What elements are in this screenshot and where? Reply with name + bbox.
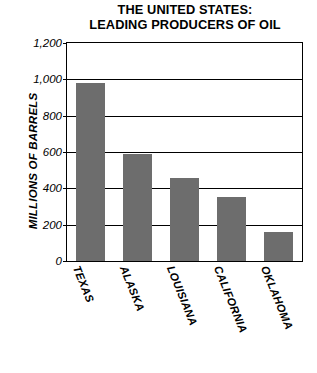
bar-louisiana xyxy=(170,178,199,261)
bar-california xyxy=(217,197,246,261)
chart-title: THE UNITED STATES: LEADING PRODUCERS OF … xyxy=(60,2,310,32)
bar-chart-figure: THE UNITED STATES: LEADING PRODUCERS OF … xyxy=(0,0,317,373)
x-axis-label-california: CALIFORNIA xyxy=(211,264,249,334)
x-axis-category-labels: TEXASALASKALOUISIANACALIFORNIAOKLAHOMA xyxy=(66,264,303,364)
x-axis-label-alaska: ALASKA xyxy=(117,264,146,313)
y-tick-label-400: 400 xyxy=(43,182,62,194)
x-axis-label-texas: TEXAS xyxy=(70,264,95,304)
x-axis-label-louisiana: LOUISIANA xyxy=(164,264,199,327)
y-tick-label-1200: 1,200 xyxy=(33,37,62,49)
y-tick-label-800: 800 xyxy=(43,110,62,122)
bar-texas xyxy=(76,83,105,261)
plot-area: 02004006008001,0001,200 xyxy=(66,42,303,262)
y-tick-mark-0 xyxy=(63,261,67,262)
y-tick-label-600: 600 xyxy=(43,146,62,158)
y-tick-label-0: 0 xyxy=(56,255,62,267)
y-axis-title: MILLIONS OF BARRELS xyxy=(27,66,39,256)
y-tick-label-200: 200 xyxy=(43,219,62,231)
x-axis-label-oklahoma: OKLAHOMA xyxy=(258,264,294,331)
bar-alaska xyxy=(123,154,152,261)
bar-oklahoma xyxy=(264,232,293,261)
chart-title-line-2: LEADING PRODUCERS OF OIL xyxy=(60,17,310,32)
chart-title-line-1: THE UNITED STATES: xyxy=(60,2,310,17)
bars-layer xyxy=(67,43,302,261)
y-tick-label-1000: 1,000 xyxy=(33,73,62,85)
